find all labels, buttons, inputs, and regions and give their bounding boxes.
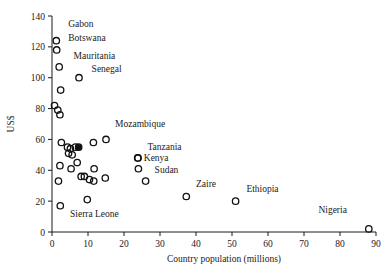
axis-titles: Country population (millions)US$ <box>6 115 281 265</box>
x-tick-label: 40 <box>191 239 201 249</box>
point-label: Sudan <box>155 165 179 175</box>
x-tick-label: 80 <box>335 239 345 249</box>
y-tick-label: 40 <box>36 166 46 176</box>
y-tick-label: 80 <box>36 104 46 114</box>
data-point <box>53 47 59 53</box>
y-tick-label: 0 <box>40 228 45 238</box>
point-labels: GabonBotswanaMauritaniaSenegalMozambique… <box>68 19 347 219</box>
data-point <box>91 166 97 172</box>
axes <box>52 16 376 232</box>
point-label: Sierra Leone <box>70 209 119 219</box>
point-label: Mauritania <box>74 51 116 61</box>
point-label: Senegal <box>92 64 122 74</box>
x-tick-label: 50 <box>227 239 237 249</box>
point-label: Ethiopia <box>246 184 279 194</box>
data-point <box>102 175 108 181</box>
point-label: Mozambique <box>115 119 165 129</box>
data-point <box>84 196 90 202</box>
data-point <box>57 203 63 209</box>
data-point <box>183 193 189 199</box>
y-tick-label: 100 <box>31 73 46 83</box>
y-tick-label: 60 <box>36 135 46 145</box>
x-tick-label: 30 <box>155 239 165 249</box>
y-tick-label: 140 <box>31 12 46 22</box>
data-point <box>76 75 82 81</box>
data-point <box>58 139 64 145</box>
point-label: Tanzania <box>147 142 182 152</box>
x-tick-label: 20 <box>119 239 129 249</box>
x-tick-label: 90 <box>371 239 381 249</box>
x-tick-label: 10 <box>83 239 93 249</box>
chart-page: 0102030405060708090020406080100120140 Ga… <box>0 0 388 277</box>
data-point <box>57 162 63 168</box>
x-tick-label: 70 <box>299 239 309 249</box>
data-point <box>142 178 148 184</box>
data-point <box>232 198 238 204</box>
point-label: Gabon <box>68 19 94 29</box>
data-point <box>103 136 109 142</box>
y-axis-title: US$ <box>6 115 16 132</box>
data-point <box>75 144 81 150</box>
y-tick-label: 20 <box>36 197 46 207</box>
y-tick-label: 120 <box>31 42 46 52</box>
data-point <box>135 166 141 172</box>
data-point <box>366 226 372 232</box>
x-tick-label: 0 <box>50 239 55 249</box>
point-label: Zaire <box>196 179 216 189</box>
point-label: Botswana <box>68 33 106 43</box>
data-point <box>90 139 96 145</box>
data-point <box>57 87 63 93</box>
data-point <box>56 64 62 70</box>
data-point <box>55 178 61 184</box>
x-tick-label: 60 <box>263 239 273 249</box>
point-label: Nigeria <box>318 205 347 215</box>
tick-marks <box>48 16 376 236</box>
x-axis-title: Country population (millions) <box>167 254 281 265</box>
scatter-plot: 0102030405060708090020406080100120140 Ga… <box>0 0 388 277</box>
data-point <box>68 166 74 172</box>
data-point <box>53 37 59 43</box>
point-label: Kenya <box>144 153 170 163</box>
data-point <box>74 159 80 165</box>
